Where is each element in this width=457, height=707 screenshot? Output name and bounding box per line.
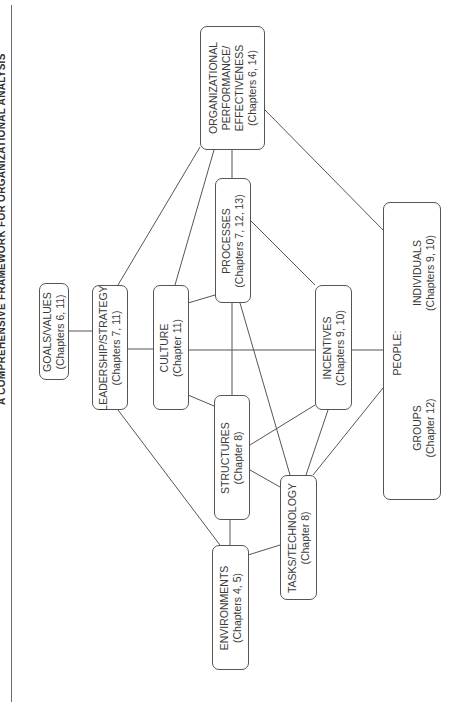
- node-chapters: (Chapter 8): [299, 482, 312, 592]
- node-environments: ENVIRONMENTS (Chapters 4, 5): [212, 545, 249, 670]
- node-organizational-performance: ORGANIZATIONAL PERFORMANCE/ EFFECTIVENES…: [200, 26, 265, 150]
- node-culture: CULTURE (Chapter 11): [153, 285, 189, 410]
- edge-processes-incentives: [250, 220, 315, 285]
- node-chapters: (Chapters 6, 11): [54, 292, 67, 372]
- edge-culture-structures: [188, 395, 214, 406]
- node-chapters: (Chapter 11): [171, 318, 184, 376]
- node-goals-values: GOALS/VALUES (Chapters 6, 11): [39, 283, 69, 380]
- node-label-line3: EFFECTIVENESS: [233, 42, 246, 134]
- people-groups: GROUPS (Chapter 12): [411, 399, 437, 458]
- edge-culture-processes: [188, 295, 215, 303]
- edge-environments-tasks: [248, 545, 280, 555]
- groups-label: GROUPS: [411, 399, 424, 458]
- edge-leadership-performance: [118, 147, 200, 285]
- edge-culture-performance: [175, 150, 214, 285]
- node-label-line2: PERFORMANCE/: [220, 42, 233, 134]
- individuals-label: INDIVIDUALS: [411, 235, 424, 311]
- node-processes: PROCESSES (Chapters 7, 12, 13): [215, 178, 251, 303]
- edge-structures-tasks: [250, 470, 280, 487]
- edge-performance-people: [265, 110, 383, 230]
- edge-leadership-environments: [118, 410, 220, 545]
- node-label: INCENTIVES: [321, 310, 334, 386]
- node-people: PEOPLE: GROUPS (Chapter 12) INDIVIDUALS …: [383, 202, 441, 500]
- node-chapters: (Chapters 9, 10): [334, 310, 347, 386]
- node-incentives: INCENTIVES (Chapters 9, 10): [315, 285, 352, 410]
- node-label: GOALS/VALUES: [41, 292, 54, 372]
- people-individuals: INDIVIDUALS (Chapters 9, 10): [411, 235, 437, 311]
- edge-incentives-structures: [250, 405, 315, 445]
- node-tasks-technology: TASKS/TECHNOLOGY (Chapter 8): [280, 475, 317, 600]
- node-leadership-strategy: LEADERSHIP/STRATEGY (Chapters 7, 11): [92, 285, 128, 410]
- node-chapters: (Chapters 4, 5): [231, 565, 244, 650]
- groups-chapters: (Chapter 12): [424, 399, 437, 458]
- people-label: PEOPLE:: [391, 331, 404, 376]
- node-label: ENVIRONMENTS: [218, 565, 231, 650]
- node-label: PROCESSES: [220, 194, 233, 287]
- node-structures: STRUCTURES (Chapter 8): [214, 395, 250, 520]
- node-chapters: (Chapters 7, 11): [110, 285, 123, 410]
- node-label: CULTURE: [158, 318, 171, 376]
- people-heading: PEOPLE:: [391, 331, 404, 376]
- framework-diagram: A COMPREHENSIVE FRAMEWORK FOR ORGANIZATI…: [0, 0, 457, 707]
- node-label-line1: ORGANIZATIONAL: [207, 42, 220, 134]
- node-chapters: (Chapter 8): [232, 422, 245, 494]
- individuals-chapters: (Chapters 9, 10): [424, 235, 437, 311]
- node-chapters: (Chapters 7, 12, 13): [233, 194, 246, 287]
- node-chapters: (Chapters 6, 14): [246, 42, 259, 134]
- node-label: LEADERSHIP/STRATEGY: [97, 285, 110, 410]
- edge-incentives-tasks: [306, 410, 328, 475]
- node-label: TASKS/TECHNOLOGY: [286, 482, 299, 592]
- node-label: STRUCTURES: [219, 422, 232, 494]
